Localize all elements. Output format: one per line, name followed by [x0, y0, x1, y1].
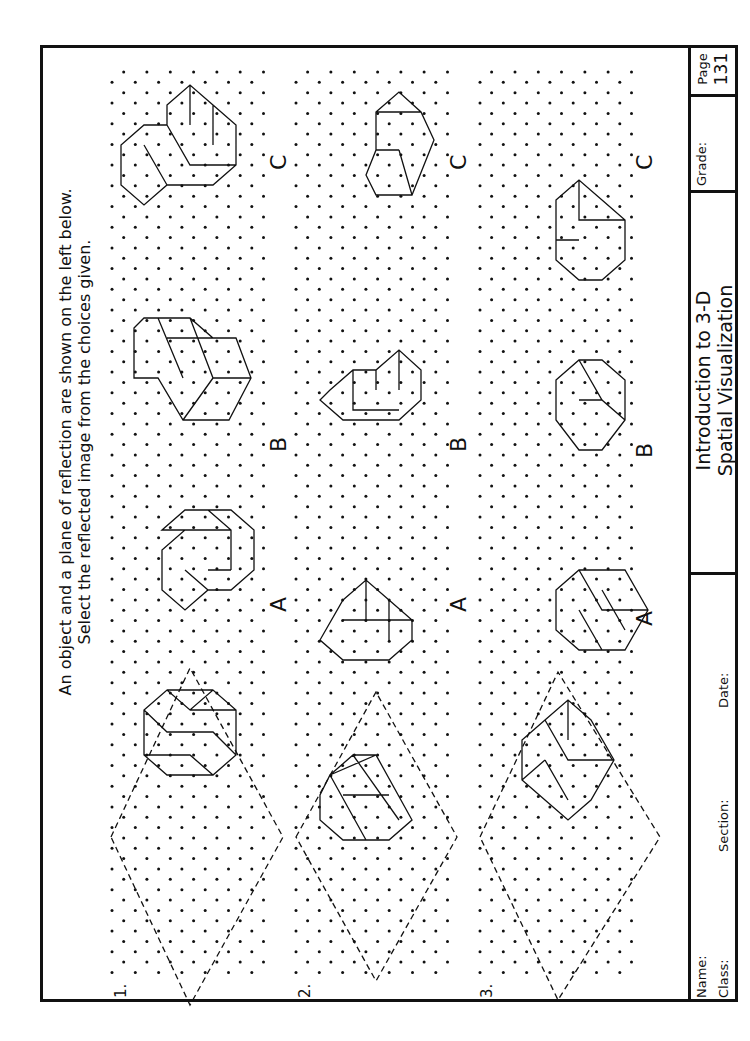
- reflection-plane-1: [111, 668, 283, 1005]
- option-figure-1c: [121, 85, 236, 205]
- option-figure-1b: [134, 318, 251, 420]
- reflection-plane-3: [480, 672, 660, 1000]
- option-figure-3c: [556, 180, 625, 280]
- option-figure-2c: [366, 92, 434, 195]
- grid-dots: [111, 71, 634, 975]
- option-figure-2b: [320, 350, 421, 420]
- option-figure-3a: [556, 570, 648, 650]
- option-figure-2a: [320, 580, 412, 660]
- worksheet-page: Page 131 Grade: Introduction to 3-D Spat…: [0, 0, 750, 1041]
- isometric-dot-grid: [0, 0, 750, 1041]
- isometric-figures: [111, 85, 660, 1005]
- option-figure-3b: [556, 360, 625, 450]
- option-figure-1a: [162, 510, 254, 610]
